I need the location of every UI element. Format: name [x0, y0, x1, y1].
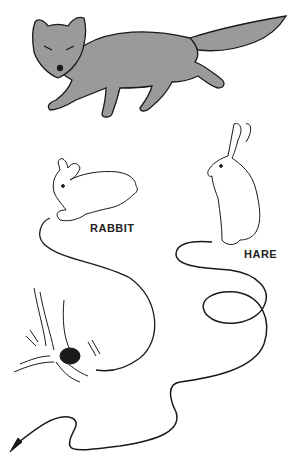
illustration-drawing	[0, 0, 298, 466]
rabbit-trail	[40, 218, 155, 371]
tree-stump	[14, 288, 100, 382]
rabbit-figure	[53, 159, 137, 221]
hare-trail	[14, 242, 267, 450]
rabbit-label: RABBIT	[90, 222, 135, 234]
hare-figure	[208, 124, 260, 245]
fox-figure	[33, 16, 286, 117]
arrow-head-icon	[10, 438, 22, 452]
illustration: RABBIT HARE	[0, 0, 298, 466]
hare-label: HARE	[244, 248, 277, 260]
